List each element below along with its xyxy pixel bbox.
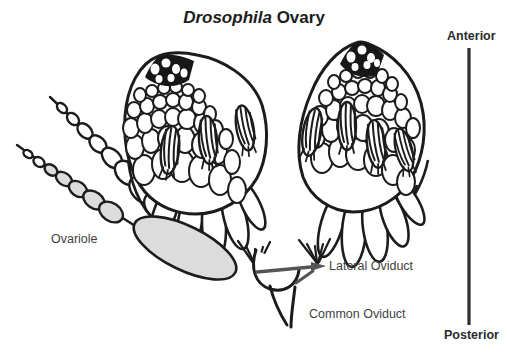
ovariole-chain-lower [17, 145, 145, 232]
common-oviduct-label: Common Oviduct [309, 307, 406, 321]
figure-title-rest: Ovary [272, 8, 325, 27]
lateral-oviduct-label: Lateral Oviduct [329, 259, 413, 273]
ovariole-label: Ovariole [51, 232, 98, 246]
drosophila-ovary-figure: Drosophila Ovary Anterior Posterior Ovar… [0, 0, 508, 354]
figure-title-genus: Drosophila [183, 8, 272, 27]
figure-title: Drosophila Ovary [0, 8, 508, 28]
left-ovary [123, 53, 267, 214]
ovary-diagram [0, 0, 508, 354]
anterior-label: Anterior [447, 29, 496, 43]
common-oviduct-tube [270, 286, 295, 327]
right-ovary [298, 42, 424, 212]
posterior-label: Posterior [444, 328, 499, 342]
